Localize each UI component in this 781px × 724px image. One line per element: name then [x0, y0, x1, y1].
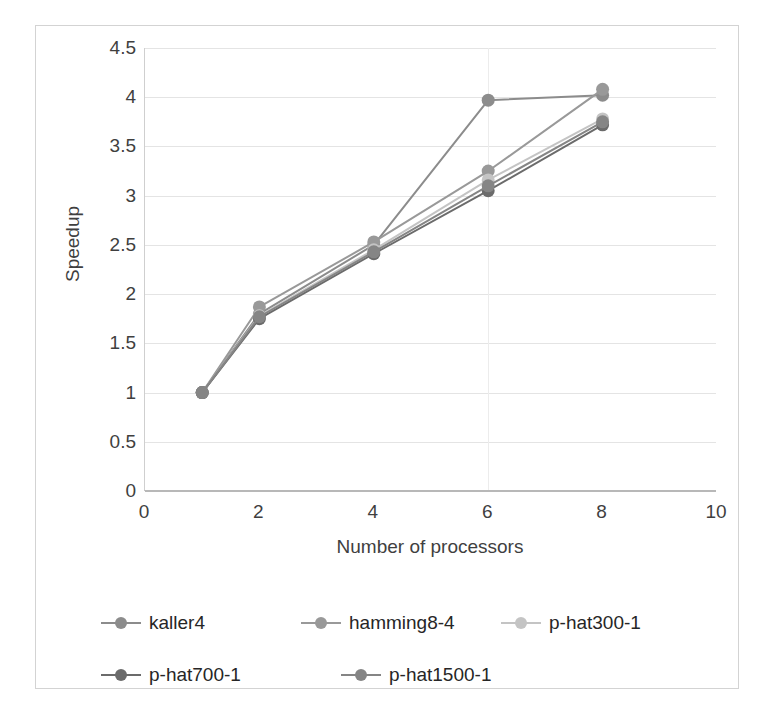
x-tick-label: 8	[596, 501, 607, 523]
x-tick-label: 0	[139, 501, 150, 523]
legend-row: kaller4hamming8-4p-hat300-1	[101, 597, 701, 649]
legend-marker-icon	[341, 668, 381, 682]
legend-marker-icon	[101, 668, 141, 682]
series-line	[202, 125, 602, 393]
chart-frame: 00.511.522.533.544.5 0246810 Speedup Num…	[35, 25, 739, 689]
data-point	[482, 94, 495, 107]
legend-item-p-hat700-1[interactable]: p-hat700-1	[101, 661, 341, 689]
legend: kaller4hamming8-4p-hat300-1p-hat700-1p-h…	[101, 597, 701, 701]
data-point	[482, 179, 495, 192]
data-point	[253, 310, 266, 323]
x-tick-label: 2	[253, 501, 264, 523]
series-plot	[145, 48, 717, 491]
legend-row: p-hat700-1p-hat1500-1	[101, 649, 701, 701]
legend-marker-icon	[101, 616, 141, 630]
x-tick-label: 6	[482, 501, 493, 523]
x-tick-label: 10	[705, 501, 726, 523]
y-tick-label: 0	[90, 480, 136, 502]
data-point	[596, 115, 609, 128]
legend-item-p-hat300-1[interactable]: p-hat300-1	[501, 609, 701, 637]
y-axis-title: Speedup	[62, 164, 84, 324]
y-tick-label: 4.5	[90, 37, 136, 59]
series-line	[202, 95, 602, 392]
series-p-hat300-1	[196, 112, 609, 399]
legend-marker-icon	[501, 616, 541, 630]
y-tick-label: 1.5	[90, 332, 136, 354]
series-p-hat700-1	[196, 118, 609, 399]
legend-item-kaller4[interactable]: kaller4	[101, 609, 301, 637]
series-hamming8-4	[196, 83, 609, 399]
y-tick-label: 1	[90, 382, 136, 404]
data-point	[196, 386, 209, 399]
legend-label: p-hat300-1	[549, 612, 641, 634]
legend-item-p-hat1500-1[interactable]: p-hat1500-1	[341, 661, 581, 689]
x-axis-ticks: 0246810	[144, 501, 716, 529]
data-point	[596, 83, 609, 96]
legend-marker-icon	[301, 616, 341, 630]
gridline-horizontal	[145, 491, 716, 492]
y-axis-ticks: 00.511.522.533.544.5	[86, 48, 136, 491]
y-tick-label: 3	[90, 185, 136, 207]
legend-item-hamming8-4[interactable]: hamming8-4	[301, 609, 501, 637]
y-tick-label: 2.5	[90, 234, 136, 256]
legend-label: kaller4	[149, 612, 205, 634]
x-tick-label: 4	[368, 501, 379, 523]
legend-label: p-hat1500-1	[389, 664, 491, 686]
legend-label: p-hat700-1	[149, 664, 241, 686]
series-line	[202, 122, 602, 393]
y-tick-label: 2	[90, 283, 136, 305]
y-tick-label: 4	[90, 86, 136, 108]
y-tick-label: 0.5	[90, 431, 136, 453]
x-axis-title: Number of processors	[144, 536, 716, 558]
plot-area	[144, 48, 716, 491]
series-kaller4	[196, 89, 609, 399]
series-line	[202, 89, 602, 392]
legend-label: hamming8-4	[349, 612, 455, 634]
data-point	[367, 245, 380, 258]
y-tick-label: 3.5	[90, 135, 136, 157]
